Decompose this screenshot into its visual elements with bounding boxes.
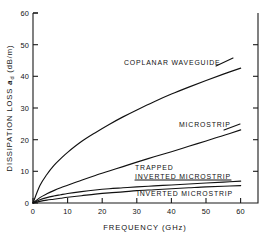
plot-area: 0 10 20 30 40 50 60 0 10 20 30 40 50 60 … [0,0,273,238]
y-axis-title: DISSIPATION LOSS ad (dB/m) [5,45,15,172]
trapped-inverted-microstrip-label-line2: INVERTED MICROSTRIP [135,173,231,180]
x-tick-label-50: 50 [202,207,211,216]
inverted-microstrip-label: INVERTED MICROSTRIP [137,190,233,197]
svg-text:DISSIPATION LOSS ad (dB/m): DISSIPATION LOSS ad (dB/m) [5,45,15,172]
microstrip-label: MICROSTRIP [179,121,231,128]
x-tick-label-10: 10 [63,207,72,216]
y-tick-label-50: 50 [20,41,29,50]
y-tick-label-0: 0 [25,199,29,208]
y-axis-ticks [33,13,38,203]
y-tick-label-30: 30 [20,104,29,113]
x-tick-label-20: 20 [98,207,107,216]
trapped-inverted-microstrip-label-line1: TRAPPED [135,164,174,171]
coplanar-waveguide-label: COPLANAR WAVEGUIDE [124,59,220,66]
y-axis-title-prefix: DISSIPATION LOSS [5,85,14,172]
x-axis-ticks [33,198,241,203]
right-axis-ticks [253,45,258,172]
y-tick-label-40: 40 [20,72,29,81]
x-tick-label-40: 40 [167,207,176,216]
y-axis-title-units: (dB/m) [5,45,14,76]
y-tick-label-20: 20 [20,136,29,145]
y-tick-label-60: 60 [20,9,29,18]
x-tick-label-30: 30 [132,207,141,216]
x-axis-title: FREQUENCY (GHz) [103,223,186,232]
x-tick-label-60: 60 [236,207,245,216]
y-tick-label-10: 10 [20,167,29,176]
dissipation-loss-chart: 0 10 20 30 40 50 60 0 10 20 30 40 50 60 … [0,0,273,238]
x-tick-label-0: 0 [31,207,35,216]
